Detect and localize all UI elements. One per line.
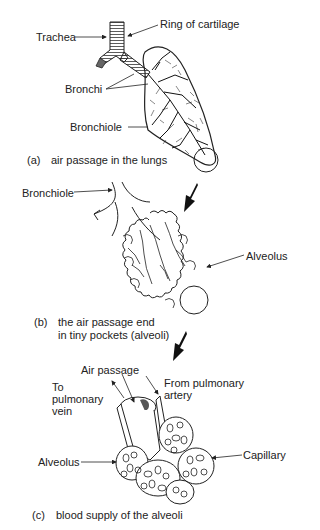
- label-capillary: Capillary: [243, 449, 286, 461]
- flow-arrow-2: [173, 331, 187, 361]
- caption-b: (b)the air passage end in tiny pockets (…: [34, 316, 169, 342]
- panel-a-lung: [96, 22, 218, 172]
- label-to-pulmonary-vein-1: To: [52, 381, 64, 393]
- label-from-pulmonary-artery-2: artery: [164, 389, 192, 401]
- label-air-passage: Air passage: [81, 364, 139, 376]
- caption-b-tag: (b): [34, 316, 58, 329]
- label-bronchiole-a: Bronchiole: [70, 121, 122, 133]
- label-to-pulmonary-vein-2: pulmonary: [52, 393, 103, 405]
- caption-b-line1: the air passage end: [58, 316, 155, 328]
- magnify-circle-b: [180, 286, 208, 314]
- label-bronchiole-b: Bronchiole: [22, 187, 74, 199]
- caption-a-text: air passage in the lungs: [51, 154, 167, 166]
- label-trachea: Trachea: [36, 31, 76, 43]
- caption-c-tag: (c): [32, 509, 56, 522]
- label-ring-of-cartilage: Ring of cartilage: [160, 18, 240, 30]
- caption-b-line2: in tiny pockets (alveoli): [34, 329, 169, 342]
- caption-a: (a)air passage in the lungs: [27, 154, 167, 167]
- label-to-pulmonary-vein-3: vein: [52, 405, 72, 417]
- caption-c-text: blood supply of the alveoli: [56, 509, 183, 521]
- label-alveolus-b: Alveolus: [246, 250, 288, 262]
- caption-c: (c)blood supply of the alveoli: [32, 509, 183, 522]
- label-from-pulmonary-artery-1: From pulmonary: [164, 377, 244, 389]
- bronchial-tree: [148, 52, 208, 155]
- label-alveolus-c: Alveolus: [38, 456, 80, 468]
- panel-c-blood-supply: [116, 396, 214, 504]
- lung-outline: [143, 47, 216, 165]
- label-bronchi: Bronchi: [65, 83, 102, 95]
- flow-arrow-1: [184, 183, 198, 212]
- caption-a-tag: (a): [27, 154, 51, 167]
